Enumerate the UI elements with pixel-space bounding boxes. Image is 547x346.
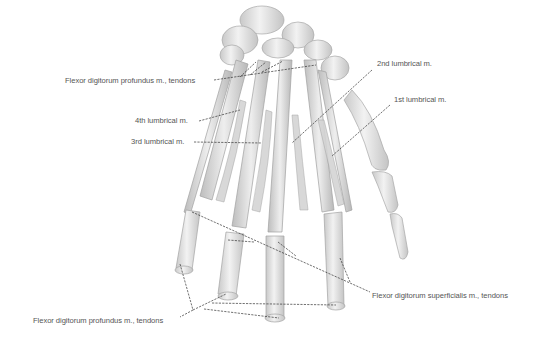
label-1st-lumbrical: 1st lumbrical m.	[394, 95, 446, 104]
label-fdp-tendons-bottom: Flexor digitorum profundus m., tendons	[33, 316, 163, 325]
anatomy-figure: Flexor digitorum profundus m., tendons 4…	[0, 0, 547, 346]
label-3rd-lumbrical: 3rd lumbrical m.	[131, 137, 184, 146]
phalanges	[175, 210, 345, 322]
label-fdp-tendons-top: Flexor digitorum profundus m., tendons	[65, 76, 195, 85]
thumb-bones	[344, 90, 408, 259]
label-4th-lumbrical: 4th lumbrical m.	[135, 116, 188, 125]
label-fds-tendons: Flexor digitorum superficialis m., tendo…	[372, 291, 508, 300]
label-2nd-lumbrical: 2nd lumbrical m.	[377, 59, 432, 68]
